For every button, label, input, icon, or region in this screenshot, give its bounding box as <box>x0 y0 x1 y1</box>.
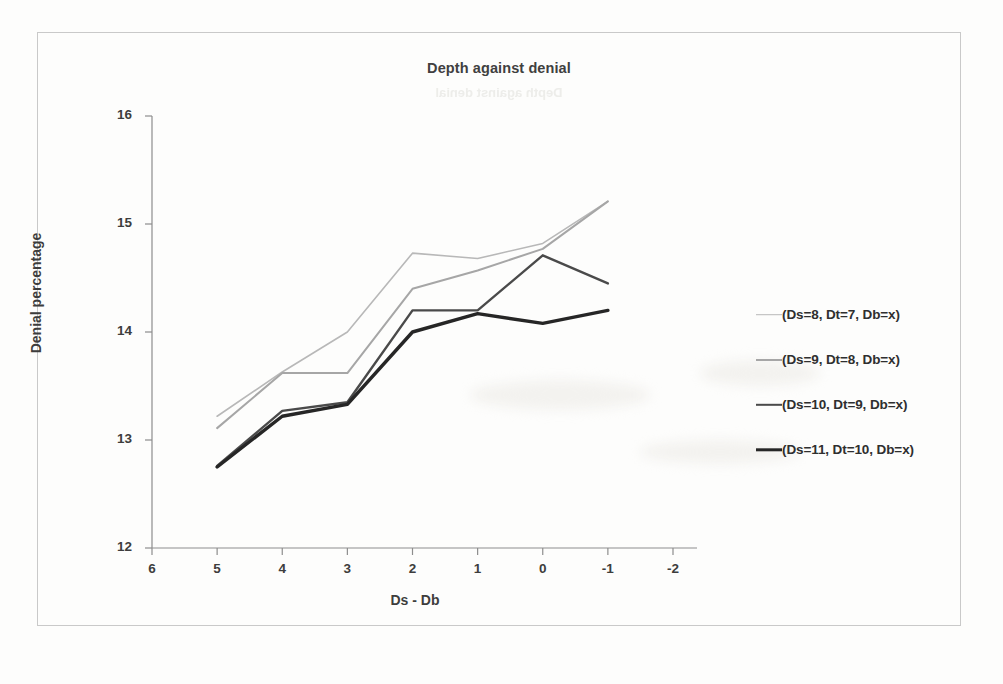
legend-line-swatch <box>756 445 782 455</box>
legend-line-swatch <box>756 400 782 410</box>
x-axis-label: Ds - Db <box>180 592 650 608</box>
legend-item-3: (Ds=10, Dt=9, Db=x) <box>756 382 996 427</box>
x-tick-label: 4 <box>267 561 297 576</box>
legend-item-1: (Ds=8, Dt=7, Db=x) <box>756 292 996 337</box>
legend-item-4: (Ds=11, Dt=10, Db=x) <box>756 427 996 472</box>
chart-legend: (Ds=8, Dt=7, Db=x)(Ds=9, Dt=8, Db=x)(Ds=… <box>756 292 996 472</box>
x-tick-label: 0 <box>528 561 558 576</box>
x-tick-label: -1 <box>593 561 623 576</box>
legend-item-2: (Ds=9, Dt=8, Db=x) <box>756 337 996 382</box>
x-tick-label: -2 <box>658 561 688 576</box>
legend-line-swatch <box>756 355 782 365</box>
x-tick-label: 3 <box>332 561 362 576</box>
legend-item-label: (Ds=8, Dt=7, Db=x) <box>782 307 900 322</box>
y-tick-label: 16 <box>98 107 132 122</box>
legend-item-label: (Ds=9, Dt=8, Db=x) <box>782 352 900 367</box>
x-tick-label: 1 <box>463 561 493 576</box>
y-tick-label: 13 <box>98 431 132 446</box>
x-tick-label: 5 <box>202 561 232 576</box>
y-tick-label: 14 <box>98 323 132 338</box>
y-axis-label: Denial percentage <box>28 213 44 373</box>
legend-item-label: (Ds=11, Dt=10, Db=x) <box>782 442 914 457</box>
legend-item-label: (Ds=10, Dt=9, Db=x) <box>782 397 907 412</box>
y-tick-label: 15 <box>98 215 132 230</box>
x-tick-label: 6 <box>137 561 167 576</box>
chart-title-ghost: Depth against denial <box>38 85 960 100</box>
x-tick-label: 2 <box>398 561 428 576</box>
legend-line-swatch <box>756 310 782 320</box>
chart-title: Depth against denial <box>38 60 960 76</box>
y-tick-label: 12 <box>98 539 132 554</box>
